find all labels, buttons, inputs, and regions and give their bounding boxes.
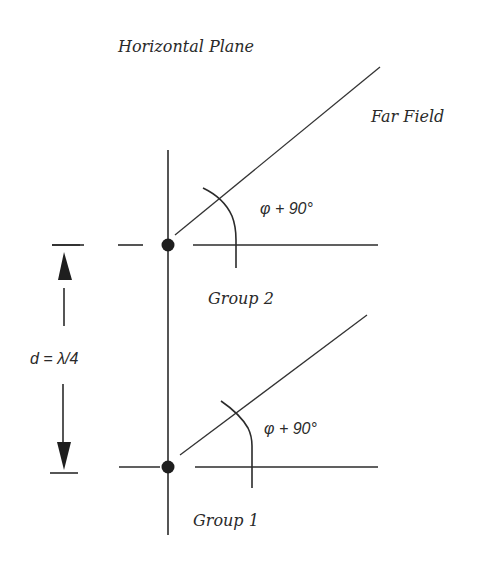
spacing-label: d = λ/4 [30,350,78,367]
angle-label: φ + 90° [264,420,317,437]
group-2: φ + 90° Group 2 [52,67,380,308]
far-field-label: Far Field [370,107,444,126]
spacing-dimension: d = λ/4 [30,245,80,473]
angle-arc [203,188,236,268]
diagram-title: Horizontal Plane [117,37,254,56]
group-1: φ + 90° Group 1 [119,315,378,530]
group-label: Group 1 [193,511,259,530]
angle-label: φ + 90° [260,200,313,217]
group-label: Group 2 [208,289,274,308]
arrow-up-icon [58,252,72,280]
arrow-down-icon [57,442,71,470]
element-dot [162,239,175,252]
element-dot [162,461,175,474]
angle-arc [221,401,252,488]
antenna-array-diagram: Horizontal Plane Far Field φ + 90° Group… [0,0,495,562]
